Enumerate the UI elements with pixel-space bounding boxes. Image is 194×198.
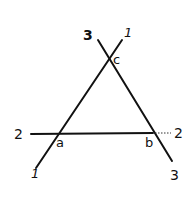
line-3-label-bottom: 3	[170, 167, 179, 183]
line-3	[98, 40, 172, 161]
line-2-label-right: 2	[174, 125, 183, 141]
line-2-label-left: 2	[14, 126, 23, 142]
line-1-label-bottom: 1	[31, 166, 39, 181]
vertex-label-b: b	[145, 135, 153, 150]
triangle-diagram: 1 1 2 2 3 3 c a b	[0, 0, 194, 198]
vertex-label-a: a	[56, 135, 64, 150]
line-2	[31, 133, 153, 134]
line-1-label-top: 1	[124, 25, 132, 40]
vertex-label-c: c	[113, 52, 120, 67]
line-3-label-top: 3	[83, 27, 93, 43]
